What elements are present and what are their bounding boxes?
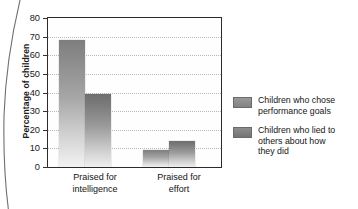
- x-label-effort-line1: Praised for: [139, 172, 219, 184]
- bar-effort-performance-goals: [143, 150, 169, 167]
- bar-effort-lied: [169, 141, 195, 167]
- legend: Children who chose performance goals Chi…: [233, 95, 358, 166]
- gridline-70: [48, 37, 221, 38]
- legend-swatch-performance-goals: [233, 97, 252, 108]
- chart-figure: Percentage of children 80 70 60: [0, 0, 358, 209]
- plot-inner: [48, 18, 221, 167]
- plot-area: 80 70 60 50 40 30 20 10 0: [47, 17, 222, 168]
- legend-label-lied-line2: others about how: [258, 136, 326, 146]
- bar-intelligence-performance-goals: [59, 40, 85, 167]
- x-label-intelligence-line2: intelligence: [55, 184, 135, 196]
- x-label-intelligence: Praised for intelligence: [55, 172, 135, 195]
- legend-label-performance-goals-line2: performance goals: [258, 106, 331, 116]
- legend-label-performance-goals-line1: Children who chose: [258, 95, 335, 105]
- legend-label-lied-line3: they did: [258, 146, 289, 156]
- legend-label-lied: Children who lied to others about how th…: [258, 125, 335, 157]
- legend-item-lied: Children who lied to others about how th…: [233, 125, 358, 157]
- legend-label-lied-line1: Children who lied to: [258, 125, 335, 135]
- legend-item-performance-goals: Children who chose performance goals: [233, 95, 358, 116]
- bar-intelligence-lied: [85, 94, 111, 167]
- x-label-intelligence-line1: Praised for: [55, 172, 135, 184]
- x-label-effort-line2: effort: [139, 184, 219, 196]
- x-label-effort: Praised for effort: [139, 172, 219, 195]
- legend-label-performance-goals: Children who chose performance goals: [258, 95, 335, 116]
- legend-swatch-lied: [233, 127, 252, 138]
